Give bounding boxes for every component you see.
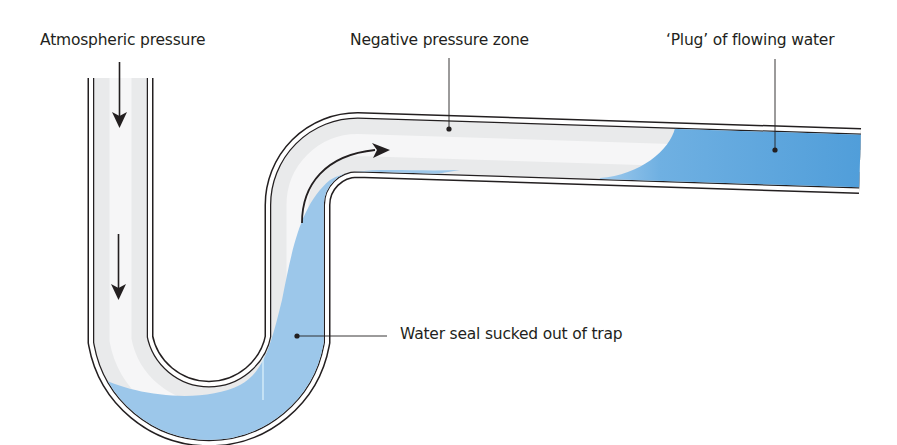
trap-siphonage-diagram [0, 0, 897, 445]
label-negative-pressure-zone: Negative pressure zone [350, 31, 529, 49]
label-atmospheric-pressure: Atmospheric pressure [40, 31, 205, 49]
label-water-seal: Water seal sucked out of trap [400, 325, 622, 343]
pipe [121, 78, 861, 414]
label-plug-of-flowing-water: ‘Plug’ of flowing water [666, 31, 834, 49]
